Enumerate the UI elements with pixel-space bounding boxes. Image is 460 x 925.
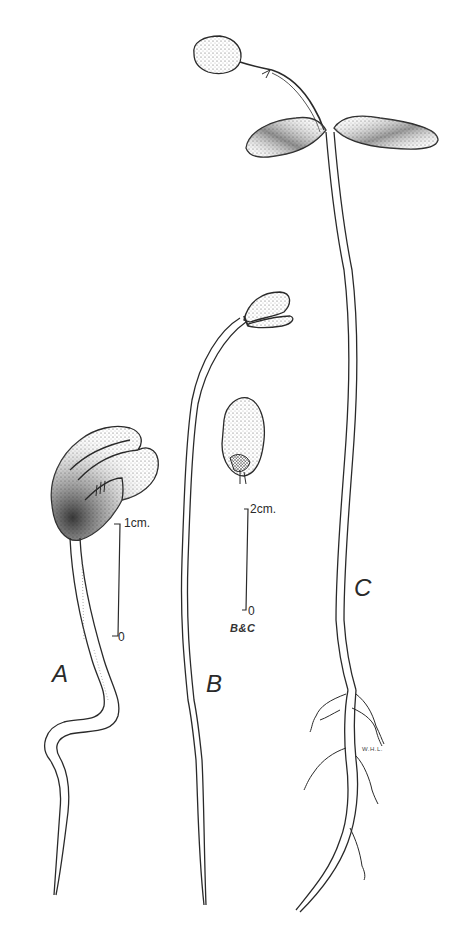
specimen-c-taproot [296, 690, 358, 912]
scale-bar-bc-caption: B&C [230, 622, 255, 634]
scale-bar-bc [242, 509, 248, 610]
specimen-c-label: C [354, 574, 371, 602]
specimen-b-label: B [206, 670, 222, 698]
botanical-plate: A B C 1cm. 0 2cm. 0 B&C W.H.L. [0, 0, 460, 925]
specimen-c-cotyledon-left [246, 118, 326, 158]
scale-bar-a-top-label: 1cm. [124, 516, 150, 530]
scale-bar-a [112, 524, 120, 636]
scale-bar-bc-top-label: 2cm. [250, 502, 276, 516]
specimen-c [194, 36, 438, 912]
specimen-c-cotyledon-right [334, 116, 438, 149]
specimen-b-cotyledons [244, 292, 293, 328]
scale-bar-bc-bottom-label: 0 [248, 604, 255, 618]
plate-drawing [0, 0, 460, 925]
specimen-b-detached-cotyledon [222, 398, 264, 484]
specimen-a-label: A [52, 660, 68, 688]
scale-bar-a-bottom-label: 0 [118, 630, 125, 644]
specimen-a-hypocotyl [45, 538, 119, 895]
specimen-c-hypocotyl [326, 132, 357, 690]
specimen-b [181, 292, 292, 905]
artist-initials: W.H.L. [362, 746, 383, 752]
